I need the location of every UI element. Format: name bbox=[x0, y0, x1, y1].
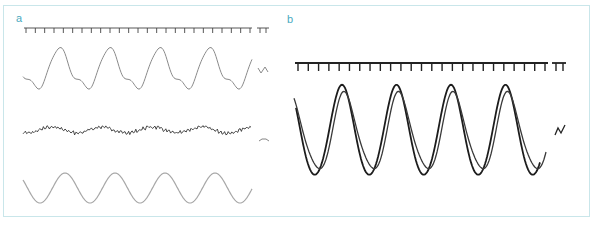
panel-a-time-axis bbox=[24, 28, 269, 33]
panel-b-time-axis bbox=[295, 63, 566, 71]
panel-b bbox=[294, 63, 566, 175]
panel-a bbox=[23, 28, 269, 203]
panel-a-distorted-trace bbox=[23, 48, 252, 90]
panel-a-sine-trace bbox=[23, 173, 252, 203]
calibration-v-mark-b bbox=[555, 125, 565, 135]
panel-b-trace-2 bbox=[294, 91, 546, 168]
calibration-tilde-mark-a bbox=[259, 139, 269, 141]
calibration-v-mark-a bbox=[258, 67, 268, 73]
panel-a-noisy-trace bbox=[23, 126, 251, 135]
figure-canvas bbox=[0, 0, 596, 229]
